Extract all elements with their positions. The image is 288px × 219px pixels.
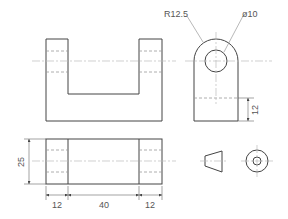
projection-cone [205,151,222,172]
radius-leader [187,16,203,42]
front-view [32,39,176,121]
gap-dim-label: 40 [99,200,109,210]
plan-view-outline [46,139,162,184]
side-slot-dim-label: 12 [250,105,260,115]
technical-drawing: R12.5 ø10 12 25 12 40 12 [0,0,288,219]
radius-label: R12.5 [164,9,188,19]
left-upright-dim-label: 12 [52,200,62,210]
diameter-label: ø10 [242,9,258,19]
projection-symbol [200,145,273,177]
side-view: R12.5 ø10 12 [164,9,272,121]
plan-width-dim-label: 25 [16,157,26,167]
diameter-leader [224,16,243,52]
right-upright-dim-label: 12 [145,200,155,210]
plan-view: 25 12 40 12 [16,139,176,210]
